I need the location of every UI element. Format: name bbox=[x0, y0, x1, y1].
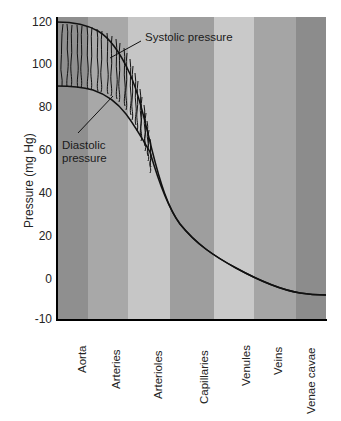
diastolic-pressure-label-line2: pressure bbox=[62, 152, 107, 165]
systolic-pressure-label: Systolic pressure bbox=[145, 31, 233, 44]
x-category-veins: Veins bbox=[272, 347, 284, 375]
x-category-venules: Venules bbox=[240, 345, 252, 386]
band-arterioles bbox=[128, 17, 170, 320]
band-aorta bbox=[57, 17, 88, 320]
x-category-venae-cavae: Venae cavae bbox=[305, 347, 317, 414]
band-arteries bbox=[88, 17, 128, 320]
blood-pressure-chart: Pressure (mg Hg) 120 100 80 60 40 20 0 -… bbox=[0, 0, 341, 421]
diastolic-pressure-annotation: Diastolic pressure bbox=[62, 139, 107, 165]
x-category-arteries: Arteries bbox=[110, 349, 122, 389]
band-veins bbox=[254, 17, 296, 320]
diastolic-pressure-label-line1: Diastolic bbox=[62, 139, 107, 152]
x-category-arterioles: Arterioles bbox=[152, 350, 164, 399]
band-venae-cavae bbox=[296, 17, 326, 320]
x-category-capillaries: Capillaries bbox=[198, 350, 210, 404]
systolic-pressure-annotation: Systolic pressure bbox=[145, 31, 233, 44]
band-capillaries bbox=[170, 17, 214, 320]
plot-area bbox=[0, 0, 341, 421]
x-category-aorta: Aorta bbox=[76, 346, 88, 374]
